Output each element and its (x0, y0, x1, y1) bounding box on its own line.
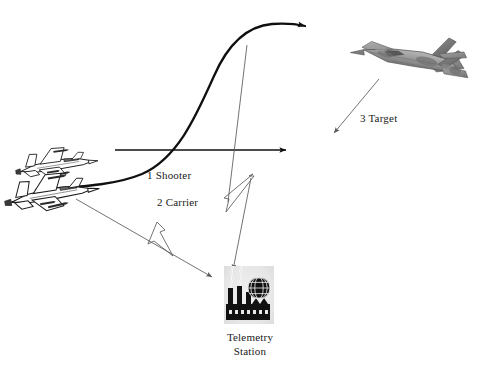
telemetry-label-line-1: Telemetry (196, 330, 304, 344)
label-telemetry-station: Telemetry Station (196, 330, 304, 358)
target-aircraft (350, 16, 476, 82)
datalink-missile-to-telemetry-arrow (228, 45, 251, 270)
target-pointer-arrow (334, 79, 379, 133)
lightning-bolt-left (148, 222, 173, 256)
telemetry-station-icon (224, 263, 274, 324)
engagement-diagram: 1 Shooter 2 Carrier 3 Target Telemetry S… (0, 0, 504, 369)
telemetry-label-line-2: Station (196, 344, 304, 358)
datalink-carrier-to-telemetry-arrow (76, 199, 212, 277)
label-shooter: 1 Shooter (147, 169, 191, 181)
lightning-bolt-right (224, 174, 254, 212)
label-carrier: 2 Carrier (157, 196, 198, 208)
diagram-canvas (0, 0, 504, 369)
label-target: 3 Target (360, 112, 397, 124)
globe-icon (248, 277, 270, 299)
